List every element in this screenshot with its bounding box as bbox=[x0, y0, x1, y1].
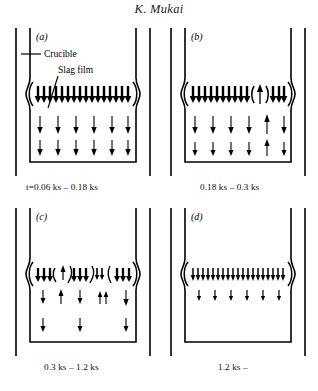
meniscus-right-icon bbox=[133, 82, 137, 106]
bulk-row-c-1 bbox=[41, 289, 129, 306]
up-arrow bbox=[104, 291, 109, 304]
up-arrow bbox=[98, 291, 103, 304]
panel-c-letter: (c) bbox=[36, 211, 48, 223]
slag-film-row-d bbox=[184, 262, 292, 286]
gap-up-arrow-b bbox=[257, 84, 263, 104]
bulk-row-a-2 bbox=[37, 140, 130, 156]
bulk-row-c-2 bbox=[41, 318, 129, 332]
slag-segment-c-3 bbox=[95, 268, 105, 280]
slag-arrows-b-left bbox=[190, 86, 251, 103]
fragment-edge-icon bbox=[90, 266, 93, 283]
slag-segment-c-1 bbox=[35, 268, 53, 282]
caption-panel-d: 1.2 ks – bbox=[218, 362, 248, 372]
meniscus-left-icon bbox=[184, 262, 188, 286]
bulk-row-b-2 bbox=[193, 139, 287, 156]
panel-d-diagram: (d) bbox=[163, 206, 313, 358]
slag-film-label: Slag film bbox=[58, 65, 94, 75]
crucible-label: Crucible bbox=[44, 49, 77, 59]
up-arrow bbox=[264, 139, 269, 156]
slag-film-row-b bbox=[184, 82, 292, 106]
rupture-edge-right-icon bbox=[266, 86, 268, 103]
fragment-edge-icon bbox=[68, 266, 71, 283]
caption-panel-b: 0.18 ks – 0.3 ks bbox=[200, 182, 259, 192]
meniscus-left-icon bbox=[29, 82, 33, 106]
panel-c: (c) bbox=[8, 206, 158, 358]
panel-d-letter: (d) bbox=[191, 211, 203, 223]
panel-a: (a) Crucible Slag film bbox=[8, 26, 158, 178]
panel-c-diagram: (c) bbox=[8, 206, 158, 358]
slag-film-row-c bbox=[29, 262, 137, 286]
meniscus-right-icon bbox=[288, 262, 292, 286]
panel-a-letter: (a) bbox=[36, 31, 48, 43]
bulk-row-d-1 bbox=[197, 290, 281, 301]
figure-root: K. Mukai (a) Crucible Slag film bbox=[0, 0, 318, 391]
panel-d: (d) bbox=[163, 206, 313, 358]
rupture-edge-left-icon bbox=[252, 86, 254, 103]
outer-wall bbox=[171, 208, 305, 356]
meniscus-right-icon bbox=[133, 262, 137, 286]
bulk-row-a-1 bbox=[37, 116, 130, 134]
slag-film-row-a bbox=[29, 82, 137, 106]
meniscus-left-icon bbox=[184, 82, 188, 106]
panel-b: (b) bbox=[163, 26, 313, 178]
page-title: K. Mukai bbox=[0, 2, 318, 17]
outer-wall bbox=[16, 208, 150, 356]
meniscus-left-icon bbox=[29, 262, 33, 286]
slag-segment-c-4 bbox=[114, 268, 132, 282]
caption-panel-c: 0.3 ks – 1.2 ks bbox=[44, 362, 99, 372]
fragment-up-arrow-c-1 bbox=[61, 265, 66, 280]
caption-panel-a: t=0.06 ks – 0.18 ks bbox=[26, 182, 98, 192]
slag-arrows-b-right bbox=[270, 86, 288, 103]
slag-arrows-d bbox=[191, 268, 286, 281]
bulk-row-b-1 bbox=[192, 114, 286, 134]
panel-b-letter: (b) bbox=[191, 31, 203, 43]
panel-b-diagram: (b) bbox=[163, 26, 313, 178]
up-arrow bbox=[59, 289, 64, 304]
fragment-edge-icon bbox=[108, 266, 111, 283]
slag-segment-c-2 bbox=[71, 268, 89, 282]
meniscus-right-icon bbox=[288, 82, 292, 106]
outer-wall bbox=[16, 28, 150, 176]
slag-arrows-a bbox=[35, 86, 132, 103]
panel-a-diagram: (a) Crucible Slag film bbox=[8, 26, 158, 178]
up-arrow bbox=[264, 114, 269, 134]
fragment-edge-icon bbox=[53, 268, 56, 282]
